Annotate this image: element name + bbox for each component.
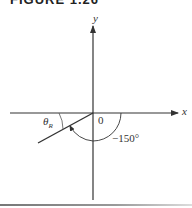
origin-label: 0 <box>98 114 104 126</box>
reference-angle-arc <box>59 113 63 129</box>
y-axis-label: y <box>93 12 98 24</box>
angle-diagram <box>0 0 192 208</box>
reference-angle-label: θR <box>43 115 53 130</box>
bottom-rule <box>0 204 192 206</box>
theta-subscript: R <box>48 122 52 130</box>
rotation-angle-label: −150° <box>112 132 139 144</box>
x-axis-label: x <box>182 105 187 117</box>
